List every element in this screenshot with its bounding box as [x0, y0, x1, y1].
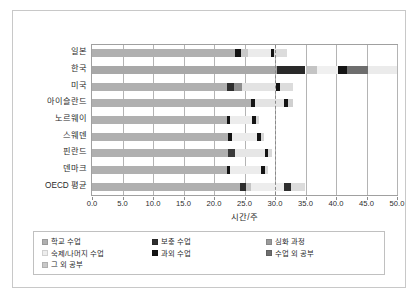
bar-segment: [241, 49, 248, 57]
legend-item[interactable]: 과외 수업: [152, 249, 191, 258]
bar-row: [92, 78, 397, 95]
legend-label: 과외 수업: [161, 249, 191, 258]
bar-segment: [368, 66, 397, 74]
legend-item[interactable]: 보충 수업: [152, 237, 191, 246]
y-axis-label: 한국: [13, 64, 87, 74]
legend-swatch-icon: [42, 250, 48, 256]
bar-segment: [347, 66, 368, 74]
bar-segment: [92, 99, 251, 107]
bar-segment: [92, 83, 227, 91]
legend-label: 심화 과정: [275, 237, 305, 246]
bar-아이슬란드: [92, 99, 397, 107]
bar-row: [92, 128, 397, 145]
bar-노르웨이: [92, 116, 397, 124]
bar-segment: [291, 183, 306, 191]
legend-label: 학교 수업: [51, 237, 81, 246]
legend-swatch-icon: [266, 250, 272, 256]
bar-segment: [306, 66, 318, 74]
bar-segment: [274, 49, 287, 57]
legend-item[interactable]: 그 외 공부: [42, 260, 83, 269]
legend-swatch-icon: [152, 239, 158, 245]
legend-item[interactable]: 수업 외 공부: [266, 249, 314, 258]
legend-label: 그 외 공부: [51, 260, 83, 269]
bar-segment: [284, 183, 291, 191]
bar-segment: [92, 116, 227, 124]
bar-segment: [338, 66, 347, 74]
x-tick-label: 30.0: [268, 199, 283, 208]
legend-item[interactable]: 심화 과정: [266, 237, 305, 246]
x-tick-label: 5.0: [117, 199, 128, 208]
y-axis-label: 일본: [13, 47, 87, 57]
legend-label: 숙제/나머지 수업: [51, 249, 104, 258]
bar-row: [92, 112, 397, 129]
bar-segment: [317, 66, 338, 74]
bar-segment: [288, 99, 293, 107]
bar-일본: [92, 49, 397, 57]
y-axis-label: 노르웨이: [13, 114, 87, 124]
x-tick-label: 10.0: [146, 199, 161, 208]
bar-segment: [92, 166, 227, 174]
legend-swatch-icon: [266, 239, 272, 245]
bar-row: [92, 62, 397, 79]
bar-스웨덴: [92, 133, 397, 141]
bar-한국: [92, 66, 397, 74]
legend-item[interactable]: 숙제/나머지 수업: [42, 249, 104, 258]
bar-segment: [248, 49, 271, 57]
bar-segment: [92, 49, 235, 57]
x-tick-label: 45.0: [359, 199, 374, 208]
bar-segment: [242, 83, 276, 91]
bar-segment: [280, 83, 293, 91]
bar-segment: [230, 166, 261, 174]
x-tick-label: 25.0: [237, 199, 252, 208]
bar-segment: [230, 116, 253, 124]
bar-segment: [228, 149, 235, 157]
bar-OECD 평균: [92, 183, 397, 191]
reference-line: [275, 45, 276, 195]
legend-swatch-icon: [152, 250, 158, 256]
bar-segment: [265, 166, 268, 174]
bar-segment: [268, 149, 272, 157]
y-axis-label: 덴마크: [13, 164, 87, 174]
x-axis-ticks: 0.05.010.015.020.025.030.035.040.045.050…: [91, 197, 398, 211]
x-tick-label: 0.0: [87, 199, 98, 208]
x-tick-label: 50.0: [390, 199, 405, 208]
legend-label: 수업 외 공부: [275, 249, 314, 258]
x-tick-label: 15.0: [176, 199, 191, 208]
legend-swatch-icon: [42, 262, 48, 268]
bar-segment: [255, 99, 284, 107]
x-tick-label: 40.0: [329, 199, 344, 208]
bar-segment: [234, 83, 243, 91]
bar-segment: [92, 183, 240, 191]
bar-row: [92, 45, 397, 62]
legend-swatch-icon: [42, 239, 48, 245]
bar-row: [92, 178, 397, 195]
y-axis-label: 미국: [13, 81, 87, 91]
bar-segment: [92, 66, 277, 74]
bar-핀란드: [92, 149, 397, 157]
x-tick-label: 20.0: [207, 199, 222, 208]
legend-label: 보충 수업: [161, 237, 191, 246]
bar-덴마크: [92, 166, 397, 174]
bar-segment: [227, 83, 234, 91]
y-axis-labels: 일본한국미국아이슬란드노르웨이스웨덴핀란드덴마크OECD 평균: [13, 44, 87, 196]
bar-segment: [251, 183, 283, 191]
y-axis-label: 스웨덴: [13, 131, 87, 141]
y-axis-label: 아이슬란드: [13, 97, 87, 107]
y-axis-label: 핀란드: [13, 147, 87, 157]
bar-row: [92, 95, 397, 112]
bar-segment: [261, 133, 264, 141]
chart-legend: 학교 수업숙제/나머지 수업그 외 공부보충 수업과외 수업심화 과정수업 외 …: [33, 231, 385, 275]
legend-item[interactable]: 학교 수업: [42, 237, 81, 246]
bar-segment: [277, 66, 305, 74]
bar-segment: [235, 149, 265, 157]
x-tick-label: 35.0: [298, 199, 313, 208]
gridline: [397, 45, 398, 195]
plot-area: [91, 44, 398, 196]
bar-미국: [92, 83, 397, 91]
x-axis-title: 시간/주: [91, 210, 398, 222]
chart-figure: 일본한국미국아이슬란드노르웨이스웨덴핀란드덴마크OECD 평균 0.05.010…: [12, 10, 406, 288]
bar-row: [92, 162, 397, 179]
bar-segment: [92, 149, 228, 157]
y-axis-label: OECD 평균: [13, 181, 87, 191]
bar-segment: [256, 116, 259, 124]
